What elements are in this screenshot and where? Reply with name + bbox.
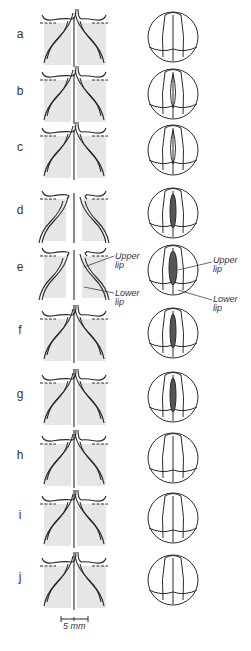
scale-bar-label: 5 mm [63, 621, 86, 631]
scale-bar [0, 0, 251, 651]
